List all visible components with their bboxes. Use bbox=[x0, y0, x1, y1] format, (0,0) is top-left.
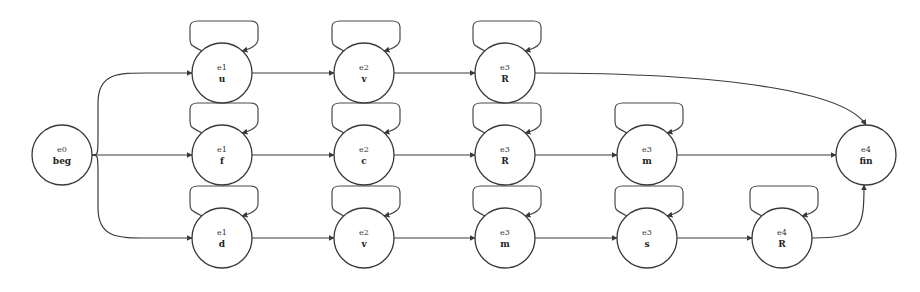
node-circle bbox=[617, 208, 677, 268]
state-node-r3e[interactable]: e4R bbox=[752, 208, 812, 268]
node-circle bbox=[475, 208, 535, 268]
node-circle bbox=[475, 125, 535, 185]
state-node-r2b[interactable]: e2c bbox=[334, 125, 394, 185]
state-diagram: e0bege1ue2ve3Re1fe2ce3Re3me4fine1de2ve3m… bbox=[0, 0, 920, 292]
node-symbol-label: m bbox=[642, 156, 652, 166]
node-state-label: e3 bbox=[642, 145, 652, 154]
node-state-label: e3 bbox=[642, 228, 652, 237]
node-symbol-label: R bbox=[778, 239, 786, 249]
edge-n0-to-r3a bbox=[92, 155, 192, 238]
node-symbol-label: fin bbox=[859, 156, 873, 166]
node-state-label: e3 bbox=[500, 145, 510, 154]
node-circle bbox=[192, 208, 252, 268]
node-circle bbox=[334, 43, 394, 103]
state-node-r3a[interactable]: e1d bbox=[192, 208, 252, 268]
state-node-r1c[interactable]: e3R bbox=[475, 43, 535, 103]
node-circle bbox=[475, 43, 535, 103]
node-state-label: e1 bbox=[217, 63, 227, 72]
node-symbol-label: v bbox=[360, 239, 367, 249]
state-node-n0[interactable]: e0beg bbox=[32, 125, 92, 185]
node-state-label: e1 bbox=[217, 228, 227, 237]
edge-r3e-to-fin bbox=[812, 185, 864, 238]
node-circle bbox=[836, 125, 896, 185]
node-symbol-label: u bbox=[219, 74, 226, 84]
state-node-r3b[interactable]: e2v bbox=[334, 208, 394, 268]
node-symbol-label: d bbox=[219, 239, 226, 249]
state-node-fin[interactable]: e4fin bbox=[836, 125, 896, 185]
node-symbol-label: v bbox=[360, 74, 367, 84]
node-symbol-label: beg bbox=[53, 156, 72, 166]
node-circle bbox=[32, 125, 92, 185]
node-circle bbox=[617, 125, 677, 185]
node-circle bbox=[334, 125, 394, 185]
node-state-label: e4 bbox=[777, 228, 787, 237]
node-symbol-label: m bbox=[500, 239, 510, 249]
node-state-label: e0 bbox=[57, 145, 67, 154]
edge-r1c-to-fin bbox=[535, 73, 866, 125]
node-circle bbox=[752, 208, 812, 268]
node-circle bbox=[192, 125, 252, 185]
state-node-r2c[interactable]: e3R bbox=[475, 125, 535, 185]
state-node-r2a[interactable]: e1f bbox=[192, 125, 252, 185]
state-node-r3d[interactable]: e3s bbox=[617, 208, 677, 268]
node-state-label: e2 bbox=[359, 63, 369, 72]
node-circle bbox=[334, 208, 394, 268]
node-symbol-label: c bbox=[361, 156, 367, 166]
node-state-label: e4 bbox=[861, 145, 871, 154]
node-state-label: e3 bbox=[500, 228, 510, 237]
node-state-label: e2 bbox=[359, 145, 369, 154]
node-circle bbox=[192, 43, 252, 103]
node-state-label: e3 bbox=[500, 63, 510, 72]
state-node-r1a[interactable]: e1u bbox=[192, 43, 252, 103]
node-symbol-label: R bbox=[501, 74, 509, 84]
node-symbol-label: s bbox=[644, 239, 649, 249]
node-symbol-label: R bbox=[501, 156, 509, 166]
node-state-label: e2 bbox=[359, 228, 369, 237]
state-node-r1b[interactable]: e2v bbox=[334, 43, 394, 103]
node-state-label: e1 bbox=[217, 145, 227, 154]
edge-n0-to-r1a bbox=[92, 73, 192, 155]
state-node-r2d[interactable]: e3m bbox=[617, 125, 677, 185]
state-node-r3c[interactable]: e3m bbox=[475, 208, 535, 268]
